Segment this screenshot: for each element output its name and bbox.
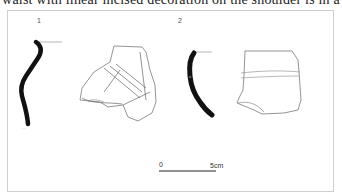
sherd-2-profile: · · xyxy=(189,52,212,122)
sherd-1-exterior xyxy=(80,46,156,121)
sherd-1-profile: · · xyxy=(21,42,62,131)
svg-text:· ·: · · xyxy=(208,117,212,122)
scale-bar-end-label: 5cm xyxy=(210,162,223,169)
svg-text:· ·: · · xyxy=(22,126,26,131)
sherd-2-exterior xyxy=(237,51,301,114)
sherd-drawings: · · · · xyxy=(0,0,342,196)
scale-bar-start-label: 0 xyxy=(159,161,163,168)
